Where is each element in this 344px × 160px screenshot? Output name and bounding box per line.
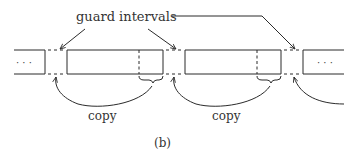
copy-label-2: copy bbox=[212, 109, 241, 123]
ellipsis-right: · · · bbox=[317, 57, 333, 68]
guard-interval-2 bbox=[166, 50, 182, 74]
ofdm-guard-interval-diagram: guard intervals · · · · · · copy copy (b… bbox=[0, 0, 344, 160]
guard-intervals-label: guard intervals bbox=[76, 9, 177, 24]
figure-caption: (b) bbox=[154, 136, 171, 150]
symbol-1 bbox=[67, 50, 163, 74]
ellipsis-left: · · · bbox=[16, 57, 32, 68]
copy-arrow-3 bbox=[294, 77, 344, 104]
guard-interval-1 bbox=[48, 50, 64, 74]
copy-label-1: copy bbox=[88, 109, 117, 123]
symbol-2 bbox=[185, 50, 281, 74]
brace-1-icon bbox=[139, 76, 163, 83]
brace-2-icon bbox=[257, 76, 281, 83]
guard-interval-3 bbox=[284, 50, 300, 74]
copy-arrow-2 bbox=[174, 77, 270, 106]
copy-arrow-1 bbox=[56, 77, 152, 106]
